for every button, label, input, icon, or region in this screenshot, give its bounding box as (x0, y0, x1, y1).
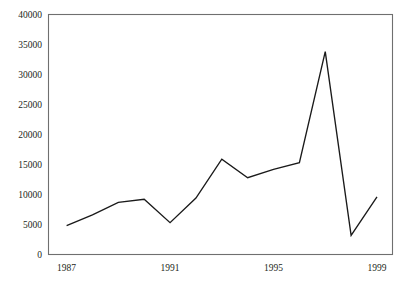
y-tick-label: 40000 (18, 10, 42, 20)
chart-page: 0500010000150002000025000300003500040000… (0, 0, 402, 285)
x-tick-label: 1991 (161, 263, 180, 273)
x-tick-label: 1987 (57, 263, 76, 273)
y-tick-label: 10000 (18, 190, 42, 200)
line-chart: 0500010000150002000025000300003500040000… (0, 0, 402, 285)
y-tick-label: 15000 (18, 160, 42, 170)
y-tick-label: 20000 (18, 130, 42, 140)
y-tick-label: 25000 (18, 100, 42, 110)
x-tick-label: 1995 (264, 263, 283, 273)
y-tick-label: 5000 (23, 220, 42, 230)
y-tick-label: 0 (37, 250, 42, 260)
y-tick-label: 30000 (18, 70, 42, 80)
x-tick-label: 1999 (367, 263, 386, 273)
y-tick-label: 35000 (18, 40, 42, 50)
chart-background (0, 0, 402, 285)
